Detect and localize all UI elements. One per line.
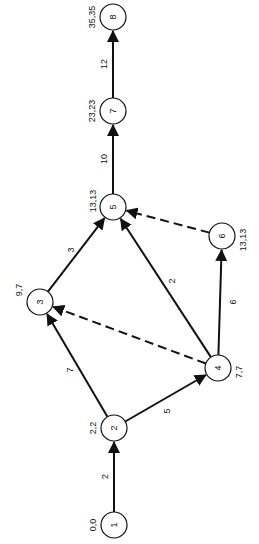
node-4: 47,7 xyxy=(205,355,244,381)
edge-weight-label: 2 xyxy=(100,474,110,479)
edge-weight-label: 12 xyxy=(99,59,109,69)
edge-weight-label: 7 xyxy=(65,367,75,372)
node-number: 6 xyxy=(217,233,227,238)
nodes-layer: 10,022,239,747,7513,13613,13723,23835,35 xyxy=(14,4,248,538)
node-times-label: 35,35 xyxy=(87,6,97,29)
node-times-label: 0,0 xyxy=(88,519,98,532)
edge-weight-label: 5 xyxy=(162,408,172,413)
node-6: 613,13 xyxy=(209,223,248,251)
node-3: 39,7 xyxy=(14,284,53,315)
node-1: 10,0 xyxy=(88,512,127,538)
edge-4-6 xyxy=(218,250,221,355)
edge-3-5 xyxy=(48,218,105,292)
node-number: 2 xyxy=(109,425,119,430)
edge-weight-label: 10 xyxy=(99,154,109,164)
node-number: 4 xyxy=(213,365,223,370)
edge-2-4 xyxy=(125,375,206,422)
node-times-label: 13,13 xyxy=(238,229,248,252)
node-times-label: 9,7 xyxy=(14,284,24,297)
node-5: 513,13 xyxy=(88,190,126,220)
node-times-label: 2,2 xyxy=(88,422,98,435)
node-7: 723,23 xyxy=(87,98,126,124)
node-number: 5 xyxy=(108,204,118,209)
node-times-label: 7,7 xyxy=(234,366,244,379)
node-number: 8 xyxy=(108,14,118,19)
network-diagram: 2753261012 10,022,239,747,7513,13613,137… xyxy=(0,0,259,544)
node-number: 3 xyxy=(35,299,45,304)
edge-2-3 xyxy=(47,314,107,417)
node-times-label: 13,13 xyxy=(88,190,98,213)
node-number: 1 xyxy=(109,522,119,527)
edges-layer xyxy=(47,31,221,512)
edge-weight-label: 6 xyxy=(228,299,238,304)
node-8: 835,35 xyxy=(87,4,126,30)
edge-weight-label: 3 xyxy=(66,247,76,252)
node-2: 22,2 xyxy=(88,415,127,441)
edge-6-5 xyxy=(127,211,210,233)
node-number: 7 xyxy=(108,108,118,113)
node-times-label: 23,23 xyxy=(87,100,97,123)
edge-weight-label: 2 xyxy=(167,278,177,283)
